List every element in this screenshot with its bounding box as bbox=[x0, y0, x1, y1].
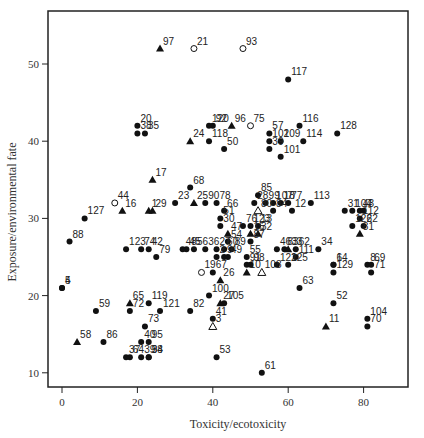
point-label: 24 bbox=[193, 128, 205, 139]
data-point: 58 bbox=[73, 329, 92, 345]
data-point: 23 bbox=[172, 190, 190, 206]
point-label: 29 bbox=[155, 198, 167, 209]
data-point: 73 bbox=[142, 313, 160, 329]
data-point: 63 bbox=[297, 275, 315, 291]
point-label: 70 bbox=[370, 313, 382, 324]
data-point: 127 bbox=[82, 205, 105, 221]
y-tick: 10 bbox=[28, 367, 48, 379]
point-label: 17 bbox=[155, 167, 167, 178]
data-point: 5 bbox=[59, 275, 71, 291]
point-label: 96 bbox=[235, 113, 247, 124]
data-point: 113 bbox=[308, 190, 330, 206]
point-label: 49 bbox=[231, 244, 243, 255]
scatter-chart: 020406080 1020304050 9721931172038351209… bbox=[0, 0, 424, 438]
point-label: 34 bbox=[321, 236, 333, 247]
point-label: 48 bbox=[186, 236, 198, 247]
x-tick-label: 40 bbox=[207, 396, 219, 408]
point-label: 39 bbox=[272, 136, 284, 147]
y-tick-label: 40 bbox=[28, 135, 40, 147]
data-point: 93 bbox=[240, 36, 258, 52]
point-label: 5 bbox=[65, 275, 71, 286]
data-point: 118 bbox=[206, 128, 228, 144]
data-point: 117 bbox=[285, 66, 307, 82]
point-label: 81 bbox=[363, 221, 375, 232]
point-label: 98 bbox=[254, 252, 266, 263]
point-label: 109 bbox=[284, 128, 301, 139]
y-tick-label: 50 bbox=[28, 58, 40, 70]
point-label: 73 bbox=[148, 313, 160, 324]
y-tick-label: 10 bbox=[28, 367, 40, 379]
point-label: 31 bbox=[348, 198, 360, 209]
data-point: 34 bbox=[315, 236, 333, 252]
y-axis: 1020304050 bbox=[28, 58, 48, 379]
x-axis-title: Toxicity/ecotoxicity bbox=[190, 417, 286, 431]
point-label: 125 bbox=[291, 252, 308, 263]
point-label: 88 bbox=[73, 229, 85, 240]
point-label: 108 bbox=[265, 259, 282, 270]
point-label: 71 bbox=[374, 259, 386, 270]
data-point: 128 bbox=[334, 120, 357, 136]
point-label: 86 bbox=[106, 329, 118, 340]
point-label: 21 bbox=[197, 36, 209, 47]
point-label: 35 bbox=[148, 120, 160, 131]
point-label: 117 bbox=[291, 66, 307, 77]
point-label: 92 bbox=[216, 113, 228, 124]
y-tick: 40 bbox=[28, 135, 48, 147]
point-label: 2 bbox=[220, 244, 226, 255]
data-point: 3 bbox=[209, 313, 222, 329]
data-point: 86 bbox=[100, 329, 118, 345]
data-point: 17 bbox=[148, 167, 167, 183]
point-label: 105 bbox=[227, 290, 244, 301]
y-tick: 20 bbox=[28, 290, 48, 302]
data-point: 24 bbox=[186, 128, 205, 144]
data-point: 96 bbox=[228, 113, 247, 129]
point-label: 97 bbox=[163, 36, 175, 47]
data-points: 9721931172038351209296751162411850571021… bbox=[59, 36, 387, 376]
x-tick-label: 60 bbox=[283, 396, 295, 408]
data-point: 52 bbox=[330, 290, 348, 306]
data-point: 114 bbox=[300, 128, 322, 144]
point-label: 95 bbox=[152, 329, 164, 340]
point-label: 25 bbox=[197, 190, 209, 201]
x-tick: 20 bbox=[132, 387, 144, 408]
data-point: 82 bbox=[187, 298, 205, 314]
point-label: 93 bbox=[246, 36, 258, 47]
point-label: 52 bbox=[336, 290, 348, 301]
x-tick: 60 bbox=[283, 387, 295, 408]
data-point: 97 bbox=[156, 36, 175, 52]
data-point: 11 bbox=[322, 313, 340, 329]
data-point: 21 bbox=[191, 36, 209, 52]
x-tick: 80 bbox=[358, 387, 370, 408]
data-point: 53 bbox=[214, 344, 232, 360]
x-tick: 40 bbox=[207, 387, 219, 408]
data-point: 75 bbox=[248, 113, 266, 129]
y-tick-label: 30 bbox=[28, 212, 40, 224]
y-tick: 30 bbox=[28, 212, 48, 224]
point-label: 64 bbox=[133, 344, 145, 355]
point-label: 121 bbox=[163, 298, 180, 309]
x-tick: 0 bbox=[59, 387, 65, 408]
point-label: 11 bbox=[329, 313, 340, 324]
data-point: 68 bbox=[187, 175, 205, 191]
point-label: 129 bbox=[336, 259, 353, 270]
x-tick-label: 0 bbox=[59, 396, 65, 408]
point-label: 12 bbox=[295, 198, 307, 209]
point-label: 50 bbox=[227, 136, 239, 147]
point-label: 63 bbox=[303, 275, 315, 286]
point-label: 75 bbox=[254, 113, 266, 124]
point-label: 128 bbox=[340, 120, 357, 131]
point-label: 53 bbox=[220, 344, 232, 355]
point-label: 59 bbox=[99, 298, 111, 309]
point-label: 3 bbox=[216, 313, 222, 324]
point-label: 82 bbox=[193, 298, 205, 309]
data-point: 59 bbox=[93, 298, 111, 314]
x-tick-label: 80 bbox=[358, 396, 370, 408]
point-label: 87 bbox=[254, 229, 266, 240]
y-axis-title: Exposure/environmental fate bbox=[5, 143, 19, 282]
x-tick-label: 20 bbox=[132, 396, 144, 408]
point-label: 19 bbox=[204, 259, 216, 270]
point-label: 94 bbox=[152, 344, 164, 355]
point-label: 114 bbox=[306, 128, 322, 139]
point-label: 16 bbox=[125, 198, 137, 209]
y-tick: 50 bbox=[28, 58, 48, 70]
